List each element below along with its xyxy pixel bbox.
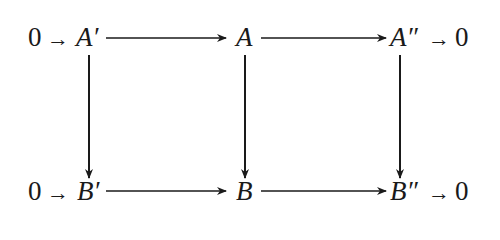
node-a: A [236, 22, 253, 52]
top-right-zero: 0 [455, 22, 469, 52]
top-left-zero: 0 [28, 22, 42, 52]
node-a-prime: A′ [76, 22, 98, 52]
node-b-prime: B′ [77, 176, 99, 206]
bottom-right-zero: 0 [455, 176, 469, 206]
node-b: B [236, 176, 253, 206]
top-left-arrow: → [47, 24, 69, 54]
top-right-arrow: → [428, 24, 450, 54]
bottom-left-arrow: → [47, 178, 69, 208]
bottom-left-zero: 0 [28, 176, 42, 206]
node-a-double-prime: A″ [390, 22, 418, 52]
bottom-right-arrow: → [428, 178, 450, 208]
node-b-double-prime: B″ [390, 176, 418, 206]
